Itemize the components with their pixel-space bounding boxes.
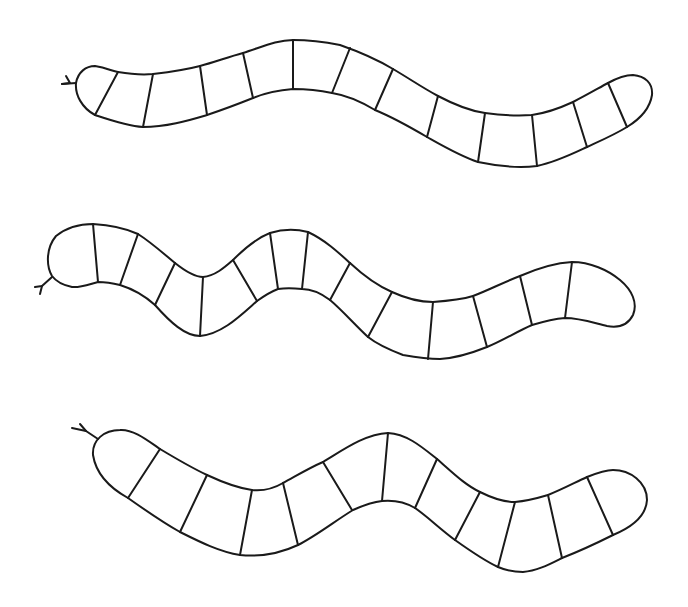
segment-line	[95, 72, 118, 115]
segment-line	[520, 276, 532, 325]
segment-line	[382, 433, 388, 501]
segment-line	[498, 502, 515, 567]
segment-line	[120, 234, 138, 285]
segment-line	[283, 483, 298, 545]
segment-line	[243, 53, 253, 98]
segment-line	[427, 96, 438, 137]
segment-line	[240, 490, 252, 555]
snake-2	[35, 224, 635, 359]
segment-line	[200, 277, 203, 336]
segment-line	[548, 495, 562, 558]
segment-line	[155, 263, 175, 305]
segment-line	[478, 113, 485, 162]
segment-line	[200, 66, 207, 115]
segment-line	[573, 102, 587, 147]
forked-tongue-icon	[62, 76, 70, 84]
segment-line	[93, 224, 98, 282]
segment-line	[473, 296, 487, 347]
segment-line	[143, 74, 153, 127]
snake-3	[72, 424, 647, 572]
segment-line	[233, 260, 257, 301]
segment-line	[532, 115, 537, 166]
segment-line	[128, 449, 160, 498]
segment-line	[428, 302, 433, 359]
forked-tongue-icon	[35, 277, 52, 287]
segment-line	[375, 69, 393, 110]
segment-line	[368, 292, 392, 337]
snake-3-outline	[93, 430, 647, 572]
segment-line	[587, 477, 613, 535]
segment-line	[323, 462, 352, 510]
segment-line	[180, 475, 207, 532]
snake-1	[62, 40, 652, 167]
segment-line	[330, 263, 350, 300]
segment-line	[415, 459, 437, 508]
segment-line	[565, 262, 572, 318]
segment-line	[302, 232, 308, 289]
segment-line	[270, 233, 278, 289]
drawing-canvas	[0, 0, 688, 607]
segment-line	[455, 492, 480, 540]
snake-1-outline	[76, 40, 652, 167]
segment-line	[608, 83, 627, 127]
segment-line	[332, 48, 350, 93]
snake-2-outline	[48, 224, 635, 359]
